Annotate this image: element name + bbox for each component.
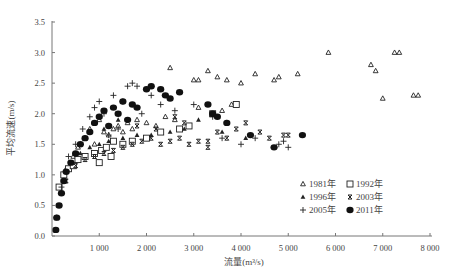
legend-label: 1996年 (309, 191, 336, 202)
data-point (267, 136, 271, 140)
data-point (120, 141, 126, 147)
data-point (129, 80, 135, 86)
data-point (253, 71, 258, 75)
data-point (159, 142, 163, 146)
data-point (129, 138, 135, 144)
x-tick-label: 3 000 (184, 243, 203, 253)
y-tick-label: 1.5 (34, 139, 45, 149)
y-tick-label: 0.5 (34, 200, 45, 210)
legend-label: 2003年 (356, 191, 383, 202)
y-tick-label: 2.0 (34, 109, 45, 119)
data-point (215, 74, 220, 78)
series-2003 (64, 115, 290, 183)
data-point (91, 120, 98, 126)
data-point (223, 120, 230, 126)
data-point (204, 101, 211, 107)
data-point (92, 142, 97, 146)
legend-label: 1981年 (309, 178, 336, 189)
data-point (77, 141, 84, 147)
data-point (196, 77, 201, 81)
legend-item: 1981年 (301, 178, 336, 189)
data-point (80, 126, 86, 132)
legend-item: 1992年 (347, 178, 383, 189)
x-tick-label: 1 000 (90, 243, 109, 253)
data-point (135, 133, 140, 137)
data-point (110, 92, 116, 98)
x-tick-label: 5 000 (279, 243, 298, 253)
data-point (167, 95, 174, 101)
legend-marker-icon (347, 181, 353, 187)
data-point (397, 50, 402, 54)
data-point (225, 136, 229, 140)
data-point (238, 141, 244, 147)
data-point (392, 50, 397, 54)
data-point (148, 83, 155, 89)
data-point (196, 139, 200, 143)
data-point (168, 129, 173, 133)
data-point (172, 108, 178, 114)
data-point (219, 135, 225, 141)
data-point (105, 123, 112, 129)
legend: 1981年1992年1996年2003年2005年2011年 (300, 178, 383, 215)
series-1981 (64, 50, 421, 171)
data-point (416, 93, 421, 97)
data-point (81, 135, 88, 141)
data-point (191, 77, 196, 81)
data-point (247, 132, 254, 138)
y-axis-title: 平均流速(m/s) (5, 100, 16, 155)
x-tick-label: 2 000 (137, 243, 156, 253)
legend-marker-icon (300, 207, 306, 213)
data-point (239, 81, 244, 85)
data-point (178, 136, 182, 140)
data-point (282, 133, 286, 137)
data-point (67, 159, 74, 165)
data-point (135, 124, 139, 128)
data-point (196, 117, 201, 121)
data-point (139, 111, 145, 117)
data-point (75, 157, 81, 163)
data-point (96, 160, 102, 166)
data-point (326, 50, 331, 54)
data-point (157, 86, 164, 92)
data-point (206, 68, 211, 72)
data-point (206, 145, 210, 149)
data-point (100, 107, 107, 113)
data-point (380, 96, 385, 100)
data-point (196, 105, 201, 109)
data-point (96, 98, 102, 104)
data-point (134, 83, 140, 89)
data-point (281, 138, 287, 144)
legend-label: 2005年 (309, 204, 336, 215)
data-point (206, 139, 210, 143)
data-point (52, 227, 59, 233)
data-point (120, 136, 125, 140)
data-point (411, 93, 416, 97)
data-point (286, 133, 290, 137)
y-tick-label: 2.5 (34, 78, 45, 88)
y-tick-label: 1.0 (34, 170, 45, 180)
data-point (135, 117, 140, 121)
legend-item: 2005年 (300, 204, 336, 215)
legend-label: 1992年 (356, 178, 383, 189)
data-point (214, 114, 221, 120)
data-point (191, 102, 197, 108)
data-point (224, 77, 229, 81)
data-point (96, 114, 103, 120)
data-point (130, 126, 135, 130)
data-point (144, 120, 149, 124)
legend-marker-icon (301, 181, 306, 185)
y-tick-label: 3.0 (34, 48, 45, 58)
data-point (53, 214, 60, 220)
legend-marker-icon (301, 194, 306, 198)
data-point (158, 129, 164, 135)
data-point (234, 127, 238, 131)
data-point (119, 98, 126, 104)
data-point (63, 169, 70, 175)
legend-label: 2011年 (356, 204, 383, 215)
scatter-chart: 0.00.51.01.52.02.53.03.5 1 0002 0003 000… (0, 0, 453, 280)
legend-item: 1996年 (301, 191, 336, 202)
axes: 0.00.51.01.52.02.53.03.5 1 0002 0003 000… (34, 17, 439, 253)
data-point (58, 190, 65, 196)
data-point (168, 139, 172, 143)
x-tick-label: 6 000 (326, 243, 345, 253)
